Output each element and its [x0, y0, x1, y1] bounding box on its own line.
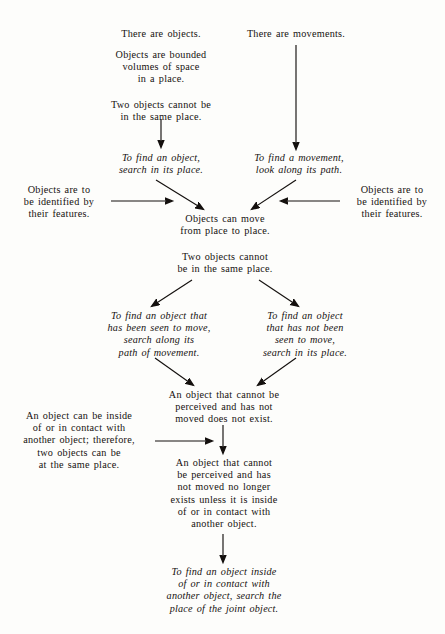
node-line: moved does not exist. [150, 413, 298, 425]
node-line: of or in contact with [147, 578, 301, 590]
node-line: their features. [9, 208, 109, 220]
node-line: An object that cannot [152, 457, 296, 469]
node-line: perceived and has not [150, 401, 298, 413]
node-cannot-be-perceived-not-exist: An object that cannot be perceived and h… [150, 389, 298, 426]
node-no-longer-exists-unless: An object that cannot be perceived and h… [152, 457, 296, 530]
node-objects-can-move: Objects can move from place to place. [155, 213, 295, 237]
node-line: be in the same place. [152, 263, 298, 275]
node-line: of or in contact with [6, 422, 152, 434]
node-line: An object that cannot be [150, 389, 298, 401]
node-line: of or in contact with [152, 506, 296, 518]
node-line: in the same place. [86, 111, 236, 123]
node-line: has been seen to move, [92, 322, 226, 334]
node-line: There are objects. [98, 28, 224, 40]
node-line: search in its place. [99, 164, 223, 176]
node-line: path of movement. [92, 347, 226, 359]
node-line: from place to place. [155, 225, 295, 237]
node-line: in a place. [88, 73, 234, 85]
node-line: Two objects cannot be [86, 99, 236, 111]
node-line: Objects are to [9, 184, 109, 196]
node-line: be identified by [342, 196, 442, 208]
node-line: their features. [342, 208, 442, 220]
node-line: To find a movement, [238, 152, 360, 164]
node-line: search in its place. [241, 347, 369, 359]
node-object-can-be-inside: An object can be inside of or in contact… [6, 410, 152, 471]
node-line: Objects are bounded [88, 49, 234, 61]
node-to-find-object-seen-to-move: To find an object that has been seen to … [92, 310, 226, 359]
node-line: be perceived and has [152, 469, 296, 481]
node-line: There are movements. [232, 28, 360, 40]
node-to-find-a-movement: To find a movement, look along its path. [238, 152, 360, 176]
node-objects-identified-right: Objects are to be identified by their fe… [342, 184, 442, 221]
node-to-find-an-object-search-place: To find an object, search in its place. [99, 152, 223, 176]
node-objects-identified-left: Objects are to be identified by their fe… [9, 184, 109, 221]
diagram-canvas: There are objects. Objects are bounded v… [0, 0, 445, 634]
node-two-objects-cannot-top: Two objects cannot be in the same place. [86, 99, 236, 123]
node-to-find-object-inside: To find an object inside of or in contac… [147, 566, 301, 615]
node-to-find-object-not-seen: To find an object that has not been seen… [241, 310, 369, 359]
node-line: two objects can be [6, 447, 152, 459]
arrow-not-seen-to-not-exist [258, 358, 296, 385]
node-line: that has not been [241, 322, 369, 334]
node-line: place of the joint object. [147, 603, 301, 615]
node-line: another object; therefore, [6, 434, 152, 446]
node-line: To find an object that [92, 310, 226, 322]
node-line: Objects can move [155, 213, 295, 225]
node-line: volumes of space [88, 61, 234, 73]
node-line: To find an object, [99, 152, 223, 164]
arrow-two-objects-to-not-seen [259, 280, 298, 306]
node-objects-are-bounded: Objects are bounded volumes of space in … [88, 49, 234, 86]
node-line: Two objects cannot [152, 251, 298, 263]
node-there-are-movements: There are movements. [232, 28, 360, 40]
node-line: another object. [152, 518, 296, 530]
node-line: Objects are to [342, 184, 442, 196]
node-line: exists unless it is inside [152, 494, 296, 506]
node-line: seen to move, [241, 334, 369, 346]
arrow-two-objects-to-seen-to-move [152, 280, 192, 306]
node-line: be identified by [9, 196, 109, 208]
arrow-find-object-to-objects-can-move [156, 180, 203, 209]
node-line: search along its [92, 334, 226, 346]
node-line: To find an object inside [147, 566, 301, 578]
arrow-find-movement-to-objects-can-move [252, 180, 296, 209]
node-line: at the same place. [6, 459, 152, 471]
node-line: To find an object [241, 310, 369, 322]
node-line: look along its path. [238, 164, 360, 176]
node-line: another object, search the [147, 590, 301, 602]
arrow-seen-to-move-to-not-exist [155, 358, 193, 385]
node-line: not moved no longer [152, 481, 296, 493]
node-line: An object can be inside [6, 410, 152, 422]
node-there-are-objects: There are objects. [98, 28, 224, 40]
node-two-objects-cannot-mid: Two objects cannot be in the same place. [152, 251, 298, 275]
